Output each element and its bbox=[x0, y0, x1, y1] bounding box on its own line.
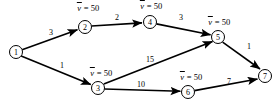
edge-weight-3-5: 15 bbox=[146, 55, 154, 64]
node-2-label: 2 bbox=[83, 23, 87, 32]
edge-weight-1-3: 1 bbox=[60, 61, 64, 70]
network-diagram: 3 2 3 1 15 10 1 7 1 2 3 4 bbox=[0, 0, 279, 109]
v-bar-symbol: v bbox=[90, 68, 95, 78]
annotation-value: = 50 bbox=[185, 72, 203, 82]
v-bar-symbol: v bbox=[208, 17, 213, 27]
annotation-vbar-node-4: v = 50 bbox=[140, 2, 162, 11]
annotation-value: = 50 bbox=[145, 1, 163, 11]
edge-1-3 bbox=[21, 56, 91, 85]
edge-6-7 bbox=[194, 79, 257, 91]
node-7-label: 7 bbox=[263, 72, 267, 81]
annotation-value: = 50 bbox=[82, 3, 100, 13]
annotation-vbar-node-6: v = 50 bbox=[180, 73, 202, 82]
node-1: 1 bbox=[10, 46, 23, 59]
v-bar-symbol: v bbox=[140, 1, 145, 11]
node-6: 6 bbox=[182, 86, 195, 99]
node-2: 2 bbox=[79, 21, 92, 34]
edge-weight-3-6: 10 bbox=[137, 80, 145, 89]
edge-5-7 bbox=[223, 42, 260, 69]
graph-canvas: 3 2 3 1 15 10 1 7 1 2 3 4 bbox=[0, 0, 279, 109]
edge-weight-6-7: 7 bbox=[227, 77, 231, 86]
annotation-vbar-node-2: v = 50 bbox=[77, 4, 99, 13]
node-3: 3 bbox=[92, 82, 105, 95]
v-bar-symbol: v bbox=[180, 72, 185, 82]
node-5-label: 5 bbox=[216, 33, 220, 42]
annotation-value: = 50 bbox=[95, 68, 113, 78]
edge-3-6 bbox=[105, 89, 181, 91]
node-4: 4 bbox=[144, 16, 157, 29]
node-3-label: 3 bbox=[96, 84, 100, 93]
v-bar-symbol: v bbox=[77, 3, 82, 13]
annotation-value: = 50 bbox=[213, 17, 231, 27]
annotation-vbar-node-5: v = 50 bbox=[208, 18, 230, 27]
edge-weight-5-7: 1 bbox=[247, 42, 251, 51]
node-1-label: 1 bbox=[14, 48, 18, 57]
node-6-label: 6 bbox=[186, 88, 190, 97]
node-5: 5 bbox=[212, 31, 225, 44]
edge-weight-2-4: 2 bbox=[115, 13, 119, 22]
edge-2-4 bbox=[92, 23, 143, 26]
edge-weight-4-5: 3 bbox=[179, 13, 183, 22]
node-7: 7 bbox=[259, 70, 272, 83]
edge-weight-1-2: 3 bbox=[49, 28, 53, 37]
annotation-vbar-node-3: v = 50 bbox=[90, 69, 112, 78]
node-4-label: 4 bbox=[148, 18, 152, 27]
edge-4-5 bbox=[156, 24, 210, 35]
